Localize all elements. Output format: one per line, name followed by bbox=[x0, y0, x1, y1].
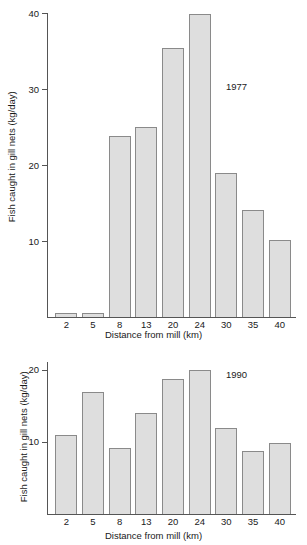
x-tick-label: 40 bbox=[274, 320, 285, 330]
bar-slot: 5 bbox=[80, 13, 107, 317]
y-tick-label-1977-10: 10 bbox=[28, 237, 39, 247]
bar[interactable] bbox=[135, 413, 157, 514]
y-axis-title-1990: Fish caught in gill nets (kg/day) bbox=[19, 357, 29, 517]
x-tick-label: 30 bbox=[221, 320, 232, 330]
y-tick-label-1990-20: 20 bbox=[28, 366, 39, 376]
bar[interactable] bbox=[269, 443, 291, 514]
y-tick-1990-20: 20 bbox=[42, 370, 47, 371]
x-tick-label: 24 bbox=[194, 517, 205, 527]
bar[interactable] bbox=[269, 240, 291, 317]
bar-slot: 30 bbox=[213, 13, 240, 317]
chart-panel-1977: 10203040 258132024303540 Fish caught in … bbox=[0, 0, 307, 340]
bar-slot: 13 bbox=[133, 362, 160, 514]
bar[interactable] bbox=[242, 210, 264, 317]
bar-group-1977: 258132024303540 bbox=[48, 13, 296, 317]
x-tick-label: 5 bbox=[90, 517, 95, 527]
bar[interactable] bbox=[55, 435, 77, 514]
x-tick-label: 2 bbox=[64, 320, 69, 330]
bar-slot: 24 bbox=[186, 13, 213, 317]
plot-area-1977: 10203040 258132024303540 bbox=[47, 13, 296, 318]
x-axis-title-1977: Distance from mill (km) bbox=[0, 330, 307, 340]
bar[interactable] bbox=[162, 379, 184, 514]
y-tick-1990-10: 10 bbox=[42, 442, 47, 443]
bar-slot: 20 bbox=[160, 13, 187, 317]
series-annotation-1990: 1990 bbox=[226, 370, 247, 380]
bar-slot: 35 bbox=[240, 13, 267, 317]
y-tick-1977-10: 10 bbox=[42, 241, 47, 242]
plot-area-1990: 1020 258132024303540 bbox=[47, 362, 296, 515]
bar-slot: 20 bbox=[160, 362, 187, 514]
x-tick-label: 40 bbox=[274, 517, 285, 527]
y-tick-label-1977-20: 20 bbox=[28, 161, 39, 171]
figure-page: 10203040 258132024303540 Fish caught in … bbox=[0, 0, 307, 545]
bar-slot: 2 bbox=[53, 13, 80, 317]
bar-slot: 24 bbox=[186, 362, 213, 514]
bar-slot: 13 bbox=[133, 13, 160, 317]
y-tick-label-1990-10: 10 bbox=[28, 438, 39, 448]
x-axis-line-1977 bbox=[47, 317, 296, 318]
bar[interactable] bbox=[215, 428, 237, 514]
x-tick-label: 2 bbox=[64, 517, 69, 527]
x-axis-title-1990: Distance from mill (km) bbox=[0, 531, 307, 541]
x-tick-label: 35 bbox=[248, 517, 259, 527]
bar[interactable] bbox=[242, 451, 264, 514]
bar[interactable] bbox=[82, 313, 104, 317]
y-tick-label-1977-40: 40 bbox=[28, 9, 39, 19]
x-tick-label: 8 bbox=[117, 517, 122, 527]
bar[interactable] bbox=[189, 14, 211, 317]
chart-panel-1990: 1020 258132024303540 Fish caught in gill… bbox=[0, 340, 307, 545]
bar-slot: 8 bbox=[106, 13, 133, 317]
bar-slot: 40 bbox=[266, 362, 293, 514]
bar-slot: 40 bbox=[266, 13, 293, 317]
bar-group-1990: 258132024303540 bbox=[48, 362, 296, 514]
x-tick-label: 30 bbox=[221, 517, 232, 527]
bar[interactable] bbox=[82, 392, 104, 514]
bar[interactable] bbox=[162, 48, 184, 317]
bar[interactable] bbox=[189, 370, 211, 514]
y-axis-title-1977: Fish caught in gill nets (kg/day) bbox=[7, 77, 17, 237]
bar[interactable] bbox=[215, 173, 237, 317]
bar[interactable] bbox=[109, 136, 131, 317]
x-axis-line-1990 bbox=[47, 514, 296, 515]
bar[interactable] bbox=[109, 448, 131, 514]
series-annotation-1977: 1977 bbox=[226, 82, 247, 92]
bar[interactable] bbox=[135, 127, 157, 317]
y-tick-label-1977-30: 30 bbox=[28, 85, 39, 95]
bar-slot: 5 bbox=[80, 362, 107, 514]
x-tick-label: 5 bbox=[90, 320, 95, 330]
bar-slot: 35 bbox=[240, 362, 267, 514]
x-tick-label: 35 bbox=[248, 320, 259, 330]
y-tick-1977-40: 40 bbox=[42, 13, 47, 14]
x-tick-label: 13 bbox=[141, 517, 152, 527]
bar-slot: 2 bbox=[53, 362, 80, 514]
x-tick-label: 20 bbox=[168, 517, 179, 527]
y-tick-1977-20: 20 bbox=[42, 165, 47, 166]
bar[interactable] bbox=[55, 313, 77, 317]
y-tick-1977-30: 30 bbox=[42, 89, 47, 90]
bar-slot: 8 bbox=[106, 362, 133, 514]
bar-slot: 30 bbox=[213, 362, 240, 514]
